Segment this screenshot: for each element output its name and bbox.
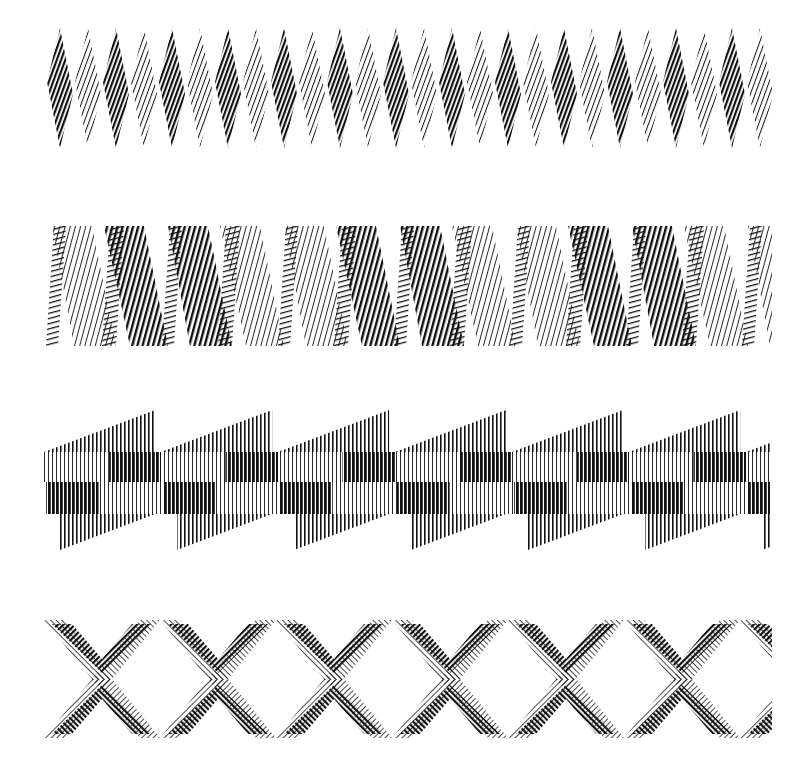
checker-cell [342,452,395,482]
diamond-shape [131,28,157,148]
arrow-fin-bottom [60,514,155,550]
arrow-fin-bottom [294,514,389,550]
diamond-shape [271,28,297,148]
arrow-fin-bottom [177,514,272,550]
diamond-shape [467,28,493,148]
diamond-shape [215,28,241,148]
checker-cell [333,482,397,514]
diamond-shape [299,28,325,148]
checker-arrow-band [44,410,770,550]
diamond-shape [47,28,73,148]
diamond-shape [327,28,353,148]
diamond-hatch-band [46,28,772,148]
checker-cell [576,452,629,482]
checker-cell [161,452,225,482]
lattice-bar [44,679,112,738]
diamond-shape [747,28,772,148]
lattice-bar [324,620,392,679]
lattice-bar [160,679,228,738]
checker-cell [684,482,748,514]
lattice-bar [508,679,576,738]
lattice-bar [92,620,160,679]
diamond-shape [719,28,745,148]
arrow-fin-top [395,410,506,452]
arrow-fin-bottom [645,514,740,550]
checker-cell [278,452,342,482]
lattice-bar [624,679,692,738]
arrow-fin-top [161,410,272,452]
checker-cell [459,452,512,482]
diamond-shape [411,28,437,148]
checker-cell [395,452,459,482]
checker-cell [108,452,161,482]
checker-cell [397,482,450,514]
diamond-shape [103,28,129,148]
lattice-bar [276,679,344,738]
diamond-shape [243,28,269,148]
checker-cell [280,482,333,514]
checker-cell [746,452,770,482]
diamond-shape [75,28,101,148]
diamond-shape [495,28,521,148]
checker-cell [514,482,567,514]
lattice-bar [556,620,624,679]
checker-cell [99,482,163,514]
checker-cell [44,452,108,482]
arrow-fin-bottom [528,514,623,550]
checker-cell [225,452,278,482]
diamond-shape [187,28,213,148]
zigzag-ribbon-band [44,226,772,346]
diamond-shape [607,28,633,148]
checker-cell [450,482,514,514]
diamond-shape [159,28,185,148]
arrow-fin-bottom [762,514,770,550]
diamond-shape [635,28,661,148]
checker-cell [46,482,99,514]
diamond-shape [439,28,465,148]
checker-cell [631,482,684,514]
lattice-bar [208,620,276,679]
diamond-shape [663,28,689,148]
checker-cell [567,482,631,514]
arrow-fin-top [278,410,389,452]
arrow-fin-top [512,410,623,452]
checker-cell [748,482,770,514]
lattice-bar [440,620,508,679]
lattice-bar [672,620,740,679]
checker-cell [512,452,576,482]
diamond-shape [551,28,577,148]
diamond-shape [523,28,549,148]
diamond-shape [579,28,605,148]
diamond-shape [691,28,717,148]
diamond-shape [383,28,409,148]
arrow-fin-top [44,410,155,452]
x-lattice-band [44,620,772,738]
checker-cell [629,452,693,482]
checker-cell [216,482,280,514]
diamond-shape [355,28,381,148]
arrow-fin-top [746,410,770,452]
checker-cell [693,452,746,482]
arrow-fin-bottom [411,514,506,550]
arrow-fin-top [629,410,740,452]
lattice-bar [392,679,460,738]
checker-cell [163,482,216,514]
